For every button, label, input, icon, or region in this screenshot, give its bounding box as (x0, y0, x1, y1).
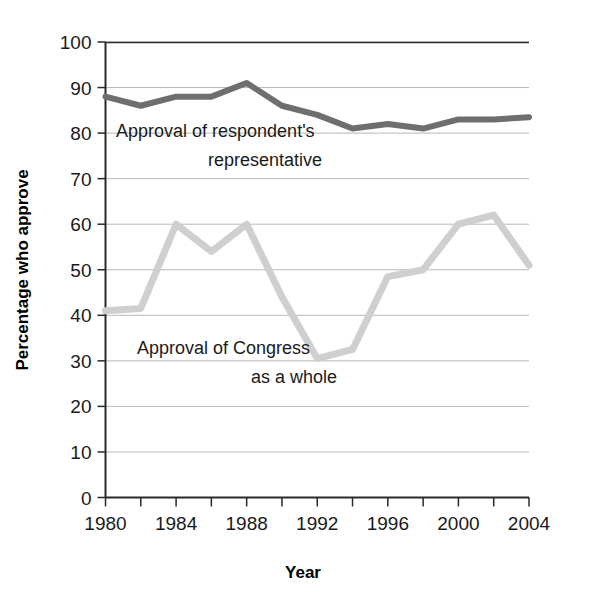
y-tick-label-30: 30 (70, 351, 91, 372)
y-tick-label-90: 90 (70, 78, 91, 99)
x-tick-label-1996: 1996 (367, 513, 409, 534)
y-tick-label-10: 10 (70, 442, 91, 463)
annotation-congress-line1: Approval of Congress (137, 338, 310, 358)
y-tick-label-80: 80 (70, 123, 91, 144)
annotation-congress-line2: as a whole (251, 367, 337, 387)
y-tick-label-50: 50 (70, 260, 91, 281)
annotation-representative-line1: Approval of respondent's (116, 121, 315, 141)
y-axis-title: Percentage who approve (13, 169, 32, 370)
x-tick-label-1992: 1992 (296, 513, 338, 534)
x-tick-label-1988: 1988 (226, 513, 268, 534)
x-tick-label-2000: 2000 (437, 513, 479, 534)
y-tick-label-60: 60 (70, 214, 91, 235)
y-tick-label-70: 70 (70, 169, 91, 190)
y-tick-label-40: 40 (70, 305, 91, 326)
y-tick-label-20: 20 (70, 396, 91, 417)
chart-figure: 0102030405060708090100 19801984198819921… (0, 0, 606, 604)
annotation-representative-line2: representative (208, 150, 322, 170)
x-tick-label-2004: 2004 (508, 513, 551, 534)
y-tick-label-0: 0 (81, 488, 92, 509)
y-tick-label-100: 100 (60, 32, 92, 53)
x-axis-title: Year (285, 563, 321, 582)
x-tick-label-1980: 1980 (84, 513, 126, 534)
x-tick-label-1984: 1984 (155, 513, 198, 534)
approval-line-chart: 0102030405060708090100 19801984198819921… (0, 0, 606, 604)
